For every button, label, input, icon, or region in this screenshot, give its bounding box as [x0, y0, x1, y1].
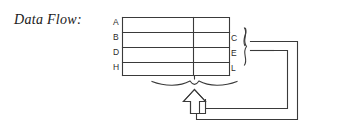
row-label-c: C: [231, 34, 237, 43]
top-return-wire: [194, 18, 230, 33]
row-label-h: H: [113, 63, 119, 72]
row-label-b: B: [113, 33, 119, 42]
feedback-loop-outer: [197, 42, 298, 120]
row-label-l: L: [231, 64, 236, 73]
row-label-e: E: [231, 49, 237, 58]
row-label-d: D: [113, 48, 119, 57]
bottom-underbrace: [152, 81, 237, 85]
right-curly-brace: [245, 28, 247, 65]
row-label-a: A: [113, 18, 119, 27]
feedback-loop-inner: [206, 51, 288, 109]
figure-canvas: Data Flow:: [0, 0, 361, 135]
data-flow-diagram: [0, 0, 361, 135]
